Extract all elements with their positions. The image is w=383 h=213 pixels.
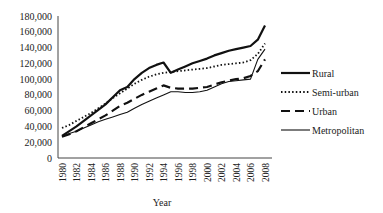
legend-label: Semi-urban [312, 87, 359, 98]
x-tick-label: 1984 [87, 163, 97, 182]
x-tick-label: 1982 [72, 163, 82, 182]
x-tick-label: 2000 [203, 163, 213, 182]
x-tick-label: 1980 [58, 163, 68, 182]
x-tick-label: 1990 [130, 163, 140, 182]
x-tick-label: 2002 [217, 163, 227, 182]
line-chart: 020,00040,00060,00080,000100,000120,0001… [0, 0, 383, 213]
x-tick-label: 1992 [145, 163, 155, 182]
x-tick-label: 2006 [246, 163, 256, 182]
x-tick-label: 2004 [232, 163, 242, 182]
x-tick-label: 1996 [174, 163, 184, 182]
legend-label: Rural [312, 68, 334, 79]
y-axis: 020,00040,00060,00080,000100,000120,0001… [20, 11, 59, 164]
y-tick-label: 100,000 [20, 74, 53, 85]
y-tick-label: 80,000 [25, 89, 53, 100]
legend-label: Urban [312, 106, 337, 117]
y-tick-label: 160,000 [20, 26, 53, 37]
series-line-urban [62, 59, 265, 136]
x-axis-label: Year [153, 197, 172, 208]
x-tick-label: 1998 [188, 163, 198, 182]
y-tick-label: 40,000 [25, 121, 53, 132]
y-tick-label: 60,000 [25, 105, 53, 116]
x-axis: 1980198219841986198819901992199419961998… [58, 158, 273, 182]
x-tick-label: 1994 [159, 163, 169, 182]
legend-label: Metropolitan [312, 125, 364, 136]
y-tick-label: 0 [47, 153, 52, 164]
legend: RuralSemi-urbanUrbanMetropolitan [281, 68, 364, 136]
plot-lines [62, 26, 265, 137]
x-tick-label: 2008 [261, 163, 271, 182]
x-tick-label: 1988 [116, 163, 126, 182]
x-tick-label: 1986 [101, 163, 111, 182]
y-tick-label: 120,000 [20, 58, 53, 69]
y-tick-label: 20,000 [25, 137, 53, 148]
y-tick-label: 180,000 [20, 11, 53, 22]
y-tick-label: 140,000 [20, 42, 53, 53]
